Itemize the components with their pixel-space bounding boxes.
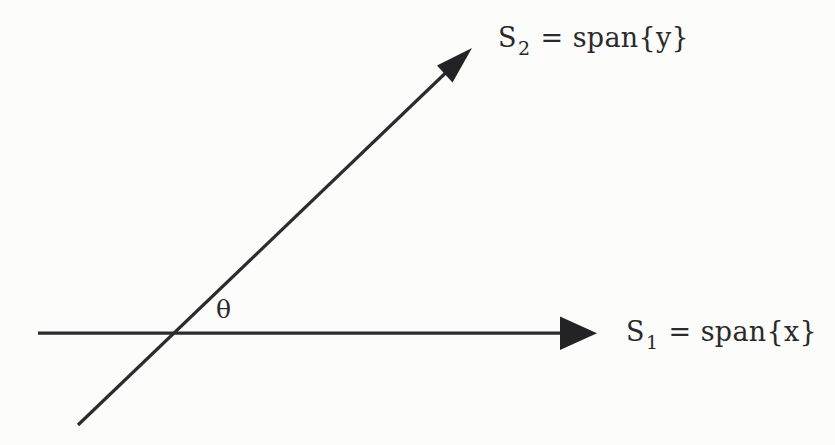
horizontal-axis-line <box>38 317 597 351</box>
label-subspace-1-subscript: 1 <box>645 331 662 353</box>
label-subspace-1-operator: = <box>662 316 701 347</box>
label-subspace-2-symbol: S <box>498 22 517 53</box>
label-subspace-2-expression: span{y} <box>573 22 689 53</box>
label-angle-theta: θ <box>216 297 231 322</box>
diagonal-axis-shaft <box>78 62 457 425</box>
label-subspace-1: S1=span{x} <box>626 318 817 352</box>
label-subspace-2: S2=span{y} <box>498 24 689 58</box>
subspace-angle-figure: S2=span{y} S1=span{x} θ <box>0 0 835 445</box>
label-subspace-1-expression: span{x} <box>701 316 817 347</box>
label-subspace-2-subscript: 2 <box>517 37 534 59</box>
horizontal-axis-arrowhead <box>560 317 597 351</box>
label-subspace-1-symbol: S <box>626 316 645 347</box>
diagram-canvas <box>0 0 835 445</box>
diagonal-axis-line <box>78 48 472 425</box>
label-subspace-2-operator: = <box>534 22 573 53</box>
